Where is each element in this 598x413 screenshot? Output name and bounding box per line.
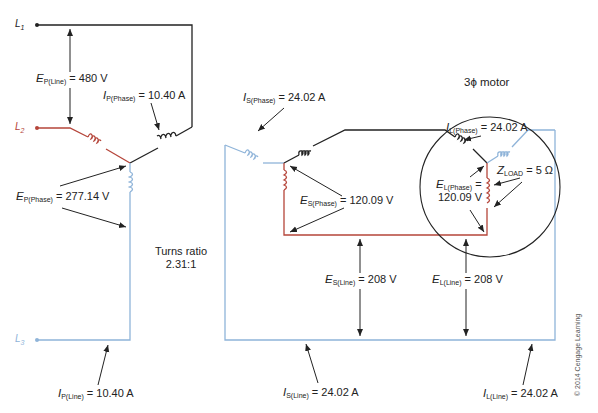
copyright: © 2014 Cengage Learning: [574, 314, 581, 396]
motor-title: 3ϕ motor: [464, 76, 509, 89]
label-es-phase: ES(Phase) = 120.09 V: [300, 194, 393, 210]
secondary-wye-delta: [225, 117, 560, 340]
turns-ratio: Turns ratio 2.31:1: [153, 245, 209, 271]
secondary-arrows: [258, 108, 532, 385]
label-is-phase: IS(Phase) = 24.02 A: [243, 91, 325, 107]
label-es-line: ES(Line) = 208 V: [324, 273, 398, 289]
label-ep-phase: EP(Phase) = 277.14 V: [16, 190, 109, 206]
label-ip-line: IP(Line) = 10.40 A: [58, 387, 134, 403]
circuit-diagram: [0, 0, 598, 413]
terminal-l3: L3: [15, 333, 24, 346]
terminal-l2: L2: [15, 121, 24, 134]
label-el-line: EL(Line) = 208 V: [431, 273, 504, 289]
label-z-load: ZLOAD = 5 Ω: [497, 164, 553, 180]
label-el-phase-value: 120.09 V: [438, 191, 482, 204]
label-il-line: IL(Line) = 24.02 A: [483, 387, 558, 403]
label-il-phase: IL(Phase) = 24.02 A: [446, 121, 527, 137]
label-is-line: IS(Line) = 24.02 A: [283, 386, 359, 402]
terminal-l1: L1: [15, 18, 24, 31]
primary-wye: [35, 23, 192, 342]
label-ip-phase: IP(Phase) = 10.40 A: [103, 89, 185, 105]
label-ep-line: EP(Line) = 480 V: [35, 72, 109, 88]
